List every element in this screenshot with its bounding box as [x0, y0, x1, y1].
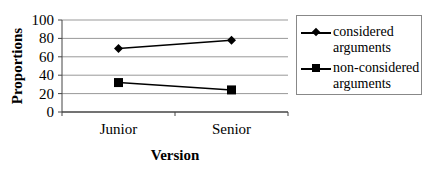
axes — [58, 20, 288, 116]
svg-text:20: 20 — [39, 86, 54, 102]
square-marker-icon — [297, 60, 333, 76]
svg-text:Proportions: Proportions — [9, 28, 25, 105]
legend: consideredarguments non-consideredargume… — [296, 15, 422, 95]
svg-text:100: 100 — [32, 12, 55, 28]
gridlines — [62, 20, 288, 94]
axis-labels: 020406080100JuniorSeniorVersionProportio… — [9, 12, 251, 163]
legend-item-non-considered: non-consideredarguments — [297, 60, 421, 92]
svg-text:60: 60 — [39, 49, 54, 65]
series-lines — [114, 36, 236, 95]
svg-text:Junior: Junior — [100, 121, 138, 137]
svg-text:0: 0 — [47, 104, 55, 120]
svg-text:Senior: Senior — [212, 121, 251, 137]
legend-item-considered: consideredarguments — [297, 24, 421, 56]
svg-text:Version: Version — [151, 147, 200, 163]
svg-text:80: 80 — [39, 30, 54, 46]
svg-text:40: 40 — [39, 67, 54, 83]
diamond-marker-icon — [297, 24, 333, 40]
